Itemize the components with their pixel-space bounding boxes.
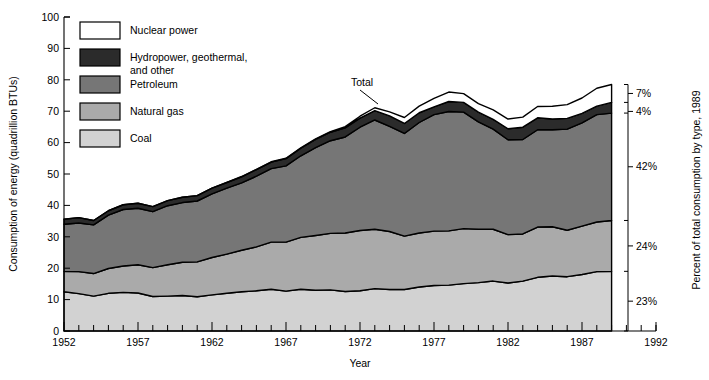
- right-axis-percent-label: 7%: [636, 87, 651, 99]
- legend-label: Hydropower, geothermal,: [130, 51, 247, 63]
- legend-label-line2: and other: [130, 64, 175, 76]
- legend-swatch: [80, 103, 120, 120]
- y2-axis-title: Percent of total consumption by type, 19…: [690, 90, 702, 289]
- x-tick-label: 1977: [422, 336, 446, 348]
- legend-swatch: [80, 22, 120, 39]
- x-tick-label: 1952: [52, 336, 76, 348]
- legend-swatch: [80, 130, 120, 147]
- x-tick-label: 1957: [126, 336, 150, 348]
- x-tick-label: 1967: [274, 336, 298, 348]
- right-axis-percent-label: 24%: [636, 240, 657, 252]
- x-tick-label: 1962: [200, 336, 224, 348]
- y-tick-label: 40: [47, 199, 59, 211]
- y-tick-label: 90: [47, 42, 59, 54]
- right-axis-percent-label: 4%: [636, 105, 651, 117]
- right-axis-percent-label: 42%: [636, 160, 657, 172]
- x-tick-label: 1972: [348, 336, 372, 348]
- y-tick-label: 50: [47, 168, 59, 180]
- y-axis-title: Consumption of energy (quadrillion BTUs): [7, 76, 19, 272]
- right-axis-percent-label: 23%: [636, 295, 657, 307]
- legend-swatch: [80, 49, 120, 66]
- legend-label: Natural gas: [130, 105, 184, 117]
- y-tick-label: 10: [47, 293, 59, 305]
- y-tick-label: 80: [47, 74, 59, 86]
- legend-label: Nuclear power: [130, 24, 198, 36]
- y-tick-label: 100: [41, 11, 59, 23]
- total-annotation-label: Total: [351, 76, 373, 88]
- chart-figure: 0102030405060708090100 19521957196219671…: [0, 0, 709, 380]
- y-tick-label: 0: [53, 325, 59, 337]
- x-tick-label: 1982: [496, 336, 520, 348]
- x-tick-label: 1992: [644, 336, 668, 348]
- x-axis-title: Year: [349, 357, 371, 369]
- legend-label: Petroleum: [130, 78, 178, 90]
- y-tick-label: 20: [47, 262, 59, 274]
- legend-label: Coal: [130, 132, 152, 144]
- y-tick-label: 60: [47, 136, 59, 148]
- legend-swatch: [80, 76, 120, 93]
- y-tick-label: 70: [47, 105, 59, 117]
- x-tick-label: 1987: [570, 336, 594, 348]
- right-percent-axis: 7%4%42%24%23%: [624, 85, 657, 331]
- stacked-area-chart: 0102030405060708090100 19521957196219671…: [0, 0, 709, 380]
- y-tick-label: 30: [47, 231, 59, 243]
